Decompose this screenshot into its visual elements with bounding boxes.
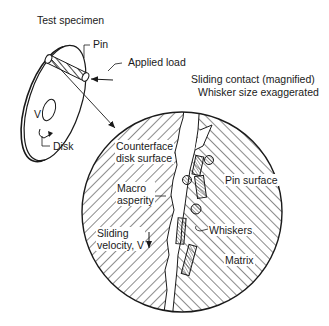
applied-load-label: Applied load: [127, 56, 187, 68]
magnified-contact-view: [60, 100, 300, 320]
sliding-velocity-label: Sliding velocity, V: [96, 227, 145, 251]
applied-load-arrow-icon: [91, 79, 113, 80]
figure-title: Test specimen: [36, 14, 105, 26]
velocity-symbol-label: V: [33, 108, 42, 120]
matrix-label: Matrix: [224, 254, 255, 266]
subtitle-line2: Whisker size exaggerated: [197, 86, 320, 98]
pin-label: Pin: [92, 38, 109, 50]
pin-surface-label: Pin surface: [224, 174, 279, 186]
subtitle-line1: Sliding contact (magnified): [190, 73, 316, 85]
disk-label: Disk: [52, 140, 74, 152]
counterface-label: Counterface disk surface: [115, 140, 174, 164]
whiskers-label: Whiskers: [208, 224, 253, 236]
macro-asperity-label: Macro asperity: [116, 182, 155, 206]
